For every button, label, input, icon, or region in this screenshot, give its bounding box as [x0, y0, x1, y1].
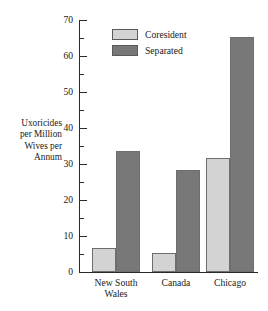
- y-axis-major-tick: [80, 92, 87, 93]
- y-axis-minor-tick: [80, 182, 84, 183]
- bar-chart: Uxoricides per Million Wives per Annum C…: [0, 0, 268, 311]
- y-axis-minor-tick: [80, 146, 84, 147]
- bar-chicago-separated: [230, 37, 254, 272]
- bar-canada-coresident: [152, 253, 176, 272]
- x-axis-line: [79, 272, 258, 273]
- y-axis-tick-label: 40: [51, 123, 73, 133]
- y-axis-minor-tick: [80, 218, 84, 219]
- y-axis-tick-label: 0: [51, 267, 73, 277]
- y-axis-minor-tick: [80, 254, 84, 255]
- y-axis-tick-label: 50: [51, 87, 73, 97]
- y-axis-minor-tick: [80, 74, 84, 75]
- y-axis-major-tick: [80, 128, 87, 129]
- legend-label-coresident: Coresident: [145, 29, 187, 40]
- y-axis-label-line-3: Wives per: [2, 141, 62, 152]
- bar-chicago-coresident: [206, 158, 230, 272]
- y-axis-tick-label: 20: [51, 195, 73, 205]
- y-axis-major-tick: [80, 56, 87, 57]
- y-axis-tick-label: 30: [51, 159, 73, 169]
- x-axis-category-label: Chicago: [185, 277, 268, 288]
- y-axis-major-tick: [80, 200, 87, 201]
- y-axis-tick-label: 60: [51, 51, 73, 61]
- legend-swatch-separated: [112, 45, 138, 56]
- legend-label-separated: Separated: [145, 45, 183, 56]
- bar-canada-separated: [176, 170, 200, 272]
- y-axis-major-tick: [80, 164, 87, 165]
- bar-new-south-wales-coresident: [92, 248, 116, 272]
- y-axis-minor-tick: [80, 110, 84, 111]
- y-axis-tick-label: 10: [51, 231, 73, 241]
- legend-swatch-coresident: [112, 29, 138, 40]
- bar-new-south-wales-separated: [116, 151, 140, 272]
- y-axis-minor-tick: [80, 38, 84, 39]
- x-axis-category-label-line: Wales: [71, 288, 161, 299]
- y-axis-tick-label: 70: [51, 15, 73, 25]
- x-axis-category-label-line: Chicago: [185, 277, 268, 288]
- y-axis-major-tick: [80, 236, 87, 237]
- y-axis-major-tick: [80, 20, 87, 21]
- y-axis-major-tick: [80, 272, 87, 273]
